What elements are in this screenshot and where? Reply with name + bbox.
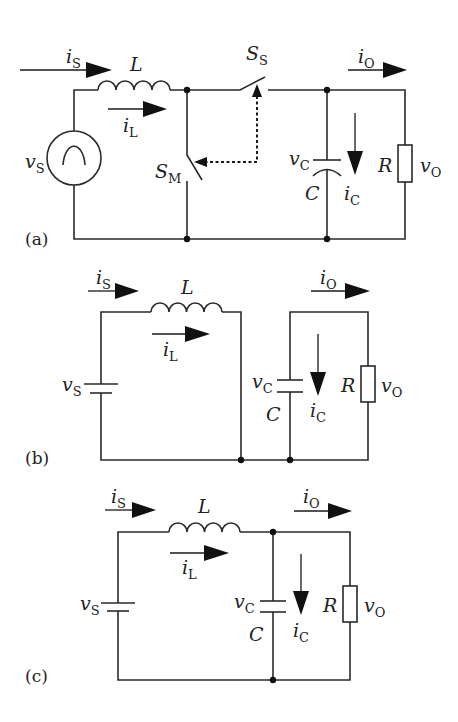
label-L: L (180, 276, 194, 298)
sine-glyph (63, 146, 85, 165)
resistor-icon (343, 586, 357, 622)
wire (118, 532, 169, 603)
panel-label-b: (b) (25, 448, 49, 468)
node-dot (287, 457, 293, 463)
boost-converter-figure: iS L iL vS SM SS iO vC C iC R vO (a) (0, 0, 458, 722)
label-il: iL (123, 114, 138, 140)
label-vs: vS (25, 150, 45, 176)
resistor-icon (361, 366, 375, 402)
wire (74, 90, 98, 131)
label-L: L (197, 495, 211, 517)
control-link (206, 96, 257, 162)
node-dot (324, 87, 330, 93)
label-R: R (340, 374, 355, 396)
panel-label-c: (c) (25, 666, 48, 686)
label-R: R (322, 594, 337, 616)
label-ss: SS (246, 42, 268, 68)
label-ic: iC (293, 619, 309, 645)
node-dot (184, 87, 190, 93)
switch-sm-blade (187, 90, 202, 180)
label-sm: SM (155, 160, 181, 186)
ac-source-icon (47, 131, 101, 185)
wire (74, 182, 405, 239)
label-ic: iC (344, 182, 360, 208)
label-vo: vO (381, 374, 402, 400)
node-dot (324, 236, 330, 242)
node-dot (238, 457, 244, 463)
circuit-a: iS L iL vS SM SS iO vC C iC R vO (a) (20, 42, 441, 249)
node-dot (184, 236, 190, 242)
il-arrow (152, 326, 210, 342)
inductor-icon (98, 81, 170, 90)
label-vo: vO (420, 154, 441, 180)
label-C: C (249, 623, 264, 645)
arrowhead-icon (194, 157, 207, 167)
label-vs: vS (62, 373, 82, 399)
label-il: iL (163, 338, 178, 364)
label-C: C (305, 182, 320, 204)
label-ic: iC (310, 399, 326, 425)
circuit-c: iS L iL vS iO vC C iC R vO (c) (25, 485, 385, 686)
label-is: iS (111, 485, 126, 511)
inductor-icon (151, 303, 222, 312)
node-dot (270, 529, 276, 535)
wire (268, 90, 405, 145)
arrowhead-icon (252, 84, 262, 97)
label-io: iO (358, 45, 375, 71)
circuit-b: iS L iL vS iO vC C iC R vO (b) (25, 266, 402, 468)
inductor-icon (169, 523, 240, 532)
label-vc: vC (289, 147, 310, 173)
wire (290, 312, 368, 380)
wire (118, 611, 350, 680)
label-vc: vC (252, 370, 273, 396)
label-io: iO (303, 485, 320, 511)
label-vc: vC (234, 590, 255, 616)
node-dot (270, 677, 276, 683)
resistor-icon (398, 145, 412, 182)
wire (101, 312, 151, 384)
wire (241, 402, 368, 460)
label-C: C (266, 403, 281, 425)
ic-arrow (293, 554, 309, 615)
label-L: L (129, 53, 143, 75)
label-is: iS (66, 45, 81, 71)
ic-arrow (310, 334, 326, 396)
label-il: iL (182, 556, 197, 582)
switch-ss-blade (170, 77, 265, 90)
label-is: iS (96, 266, 111, 292)
panel-label-a: (a) (25, 229, 48, 249)
label-vo: vO (364, 594, 385, 620)
label-R: R (377, 154, 392, 176)
il-arrow (170, 545, 229, 561)
il-arrow (108, 101, 167, 117)
label-vs: vS (80, 592, 100, 618)
label-io: iO (320, 266, 337, 292)
ic-arrow (347, 113, 363, 175)
wire (240, 532, 350, 586)
io-arrow (348, 62, 407, 78)
